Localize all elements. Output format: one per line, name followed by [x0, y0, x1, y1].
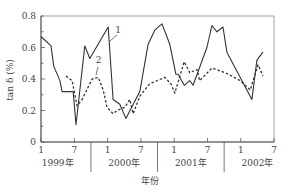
x-tick-label: 1 [105, 145, 111, 155]
series-1-label: 1 [115, 25, 121, 35]
y-tick-label: 0.8 [22, 11, 37, 21]
year-label: 2001年 [175, 157, 207, 168]
y-tick-label: 0 [30, 137, 36, 147]
x-tick-label: 7 [71, 145, 77, 155]
y-axis: 00.20.40.60.8 [22, 11, 45, 147]
x-tick-label: 7 [138, 145, 144, 155]
x-tick-label: 1 [171, 145, 177, 155]
series-lines [41, 24, 263, 125]
x-tick-label: 7 [271, 145, 277, 155]
y-tick-label: 0.6 [22, 43, 37, 53]
x-tick-label: 1 [38, 145, 44, 155]
year-label: 2002年 [241, 157, 273, 168]
leader-line [96, 67, 98, 75]
y-axis-title: tan δ (%) [5, 59, 15, 101]
year-label: 1999年 [42, 157, 74, 168]
x-axis-title: 年份 [141, 175, 159, 186]
y-tick-label: 0.2 [22, 106, 36, 116]
leader-line [110, 35, 117, 41]
series-2-line [66, 62, 263, 114]
x-tick-label: 1 [238, 145, 244, 155]
series-1-line [41, 24, 263, 125]
x-tick-label: 7 [205, 145, 211, 155]
y-tick-label: 0.4 [22, 74, 37, 84]
line-chart: 00.20.40.60.8 171717171999年2000年2001年200… [0, 0, 288, 192]
series-2-label: 2 [96, 55, 102, 65]
year-label: 2000年 [108, 157, 140, 168]
x-axis: 171717171999年2000年2001年2002年 [38, 138, 277, 172]
